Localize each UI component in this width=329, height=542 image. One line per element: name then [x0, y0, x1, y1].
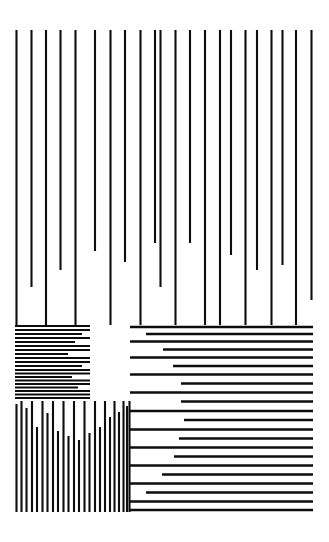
- canvas-background: [0, 0, 329, 542]
- artboard: [0, 0, 329, 542]
- line-composition-canvas: [0, 0, 329, 542]
